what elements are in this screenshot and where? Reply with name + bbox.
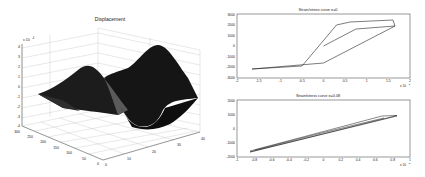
svg-text:1000: 1000 [227,113,235,117]
bottom-plot-axes [237,100,410,157]
svg-text:10: 10 [127,157,131,161]
svg-text:-3000: -3000 [226,76,235,80]
bottom-x-exponent: -3 [408,162,411,165]
svg-text:-1: -1 [17,95,20,99]
svg-text:-0.8: -0.8 [251,158,257,162]
svg-text:0.5: 0.5 [343,79,348,83]
svg-text:1: 1 [18,75,20,79]
svg-text:1.5: 1.5 [386,79,391,83]
svg-text:0.6: 0.6 [373,158,378,162]
top-plot-title: Strain/stress curve e=0 [299,8,338,12]
svg-text:0: 0 [97,162,99,166]
svg-text:-2000: -2000 [226,155,235,159]
svg-text:-0.4: -0.4 [286,158,292,162]
svg-text:-2000: -2000 [226,65,235,69]
svg-text:2000: 2000 [227,99,235,103]
svg-text:50: 50 [82,157,86,161]
top-y-ticks: 3000 2000 1000 0 -1000 -2000 -3000 [226,13,235,81]
svg-text:0.8: 0.8 [390,158,395,162]
svg-text:2000: 2000 [227,23,235,27]
svg-text:-4: -4 [17,124,20,128]
top-x-exponent: -3 [408,83,411,86]
surface-z-multiplier: x 10 [23,38,30,42]
surface-plot: Displacement x 10 -4 [14,16,205,167]
surface-z-exponent: -4 [32,36,35,40]
top-x-ticks: -2 -1.5 -1 -0.5 0 0.5 1 1.5 2 [235,79,411,83]
svg-text:-2: -2 [17,105,20,109]
svg-text:0: 0 [323,79,325,83]
strain-stress-plot-bottom: Strain/stress curve e=0.08 2000 1000 0 -… [226,94,411,167]
svg-text:1000: 1000 [227,34,235,38]
svg-text:-2: -2 [235,79,238,83]
svg-text:0: 0 [233,44,235,48]
svg-text:-1: -1 [279,79,282,83]
svg-text:-1.5: -1.5 [256,79,262,83]
svg-text:0: 0 [233,127,235,131]
svg-text:100: 100 [66,151,72,155]
svg-text:3: 3 [18,55,20,59]
svg-text:0: 0 [105,163,107,167]
surface-mesh [38,45,198,129]
top-x-multiplier: x 10 [400,84,406,88]
strain-stress-plot-top: Strain/stress curve e=0 3000 2000 1000 0… [226,8,411,88]
svg-text:0: 0 [18,85,20,89]
bottom-y-ticks: 2000 1000 0 -1000 -2000 [226,99,235,160]
svg-text:0.2: 0.2 [338,158,343,162]
surface-x-ticks: 0 10 20 30 40 [105,137,205,167]
svg-text:-3: -3 [17,115,20,119]
svg-text:2: 2 [18,65,20,69]
svg-text:40: 40 [201,137,205,141]
svg-text:150: 150 [53,146,59,150]
svg-text:-1000: -1000 [226,141,235,145]
svg-text:-1000: -1000 [226,55,235,59]
surface-title: Displacement [95,16,126,22]
svg-text:30: 30 [177,143,181,147]
svg-text:0.4: 0.4 [356,158,361,162]
svg-text:-0.5: -0.5 [299,79,305,83]
svg-text:-0.2: -0.2 [303,158,309,162]
svg-text:4: 4 [18,45,20,49]
svg-text:1: 1 [366,79,368,83]
figure: Displacement x 10 -4 [0,0,425,177]
svg-text:300: 300 [14,130,20,134]
bottom-x-multiplier: x 10 [400,163,406,167]
surface-z-ticks: 4 3 2 1 0 -1 -2 -3 -4 [17,45,20,128]
bottom-x-ticks: -1 -0.8 -0.6 -0.4 -0.2 0 0.2 0.4 0.6 0.8… [235,158,411,162]
svg-text:-1: -1 [235,158,238,162]
svg-text:250: 250 [27,135,33,139]
svg-text:0: 0 [323,158,325,162]
svg-text:-0.6: -0.6 [269,158,275,162]
svg-text:3000: 3000 [227,13,235,17]
svg-text:20: 20 [152,150,156,154]
bottom-plot-title: Strain/stress curve e=0.08 [296,94,340,98]
svg-text:200: 200 [40,140,46,144]
